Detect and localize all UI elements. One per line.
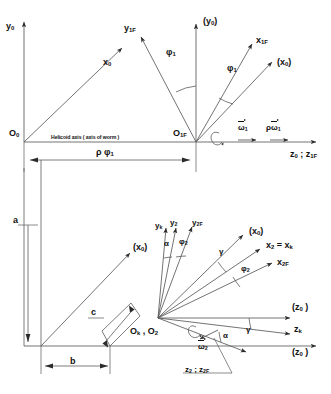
angle-label-alpha-top: α — [164, 240, 169, 248]
vector-label-rho-omega1: ρω1 — [266, 124, 281, 133]
axis-label-y2F: y2F — [192, 219, 203, 228]
angle-label-phi2-top: φ2 — [179, 238, 188, 247]
vector-label-omega2: ω2 — [198, 343, 208, 352]
angle-label-gamma-upper: γ — [219, 248, 223, 256]
axis-label-x0-left: x0 — [103, 58, 111, 68]
axis-label-y2: y2 — [170, 219, 177, 228]
dimension-label-c: c — [91, 308, 96, 317]
axis-label-x0-right: (x0) — [277, 58, 291, 68]
axis-label-y0-mid: (y0) — [203, 17, 217, 27]
axis-label-x0-lower-right: (x0) — [249, 227, 263, 237]
axis-label-y0-left: y0 — [6, 22, 14, 32]
helicoid-axis-note: Helicoid axis ( axis of worm ) — [51, 135, 119, 140]
axis-label-x2-xk: x2 = xk — [266, 241, 293, 251]
upper-diagram-lines — [24, 22, 316, 172]
dimension-label-rho-phi1: ρ φ1 — [96, 148, 114, 158]
angle-label-alpha-lower: α — [223, 332, 228, 340]
axis-label-x0-lower-left: (x0) — [133, 243, 147, 253]
axis-label-y1F: y1F — [124, 24, 136, 34]
axis-label-zk: zk — [294, 325, 302, 335]
angle-label-phi1-right: φ1 — [227, 64, 237, 74]
origin-label-O1F: O1F — [173, 129, 187, 139]
dimension-label-a: a — [13, 216, 18, 225]
axis-label-z0-right: (z0 ) — [292, 303, 308, 313]
axis-label-z2-z2F: z2 ; z2F — [185, 366, 209, 375]
axis-label-yk: yk — [155, 222, 162, 231]
axis-label-z0-z1F: z0 ; z1F — [290, 150, 317, 160]
axis-label-x1F: x1F — [256, 36, 268, 46]
origin-label-Ok-O2: Ok , O2 — [130, 327, 158, 337]
dimension-label-b: b — [70, 357, 76, 366]
angle-label-phi1-left: φ1 — [166, 48, 176, 58]
angle-label-phi2-right: φ2 — [241, 265, 250, 274]
origin-label-O0: O0 — [9, 129, 19, 139]
angle-label-gamma-lower: γ — [246, 326, 250, 334]
vector-label-omega1: ω1 — [238, 124, 248, 133]
figure-canvas: y0 (y0) y1F x0 x1F (x0) z0 ; z1F φ1 φ1 O… — [0, 0, 331, 394]
lower-diagram-lines — [18, 160, 316, 374]
axis-label-x2F: x2F — [277, 258, 289, 268]
axis-label-z0-bottom: (z0 ) — [292, 348, 308, 358]
